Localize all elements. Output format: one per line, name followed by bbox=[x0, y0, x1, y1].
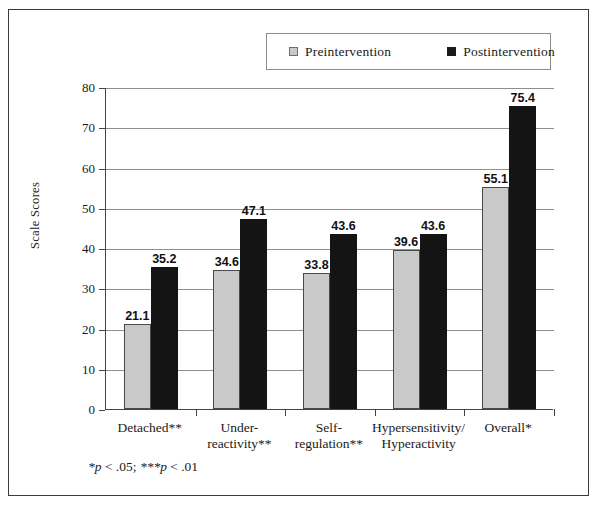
bar-value-label: 33.8 bbox=[304, 258, 328, 272]
y-axis-tick-label: 80 bbox=[61, 80, 95, 96]
footnote-part-3: ***p bbox=[140, 459, 167, 474]
bar-group: 21.135.2 bbox=[124, 87, 178, 409]
bar-postintervention: 35.2 bbox=[151, 267, 178, 409]
bar-preintervention: 55.1 bbox=[482, 187, 509, 409]
x-axis-category-label: Detached** bbox=[99, 420, 201, 436]
footnote-part-4: < .01 bbox=[167, 459, 198, 474]
bar-postintervention: 47.1 bbox=[240, 219, 267, 409]
y-axis-tick-label: 50 bbox=[61, 201, 95, 217]
bar-value-label: 39.6 bbox=[394, 235, 418, 249]
y-axis-tick-label: 30 bbox=[61, 281, 95, 297]
legend-label-postintervention: Postintervention bbox=[463, 44, 555, 60]
footnote-significance: *p < .05; ***p < .01 bbox=[88, 459, 198, 475]
bar-group: 39.643.6 bbox=[393, 87, 447, 409]
bar-postintervention: 75.4 bbox=[509, 106, 536, 409]
y-axis-tick-label: 40 bbox=[61, 241, 95, 257]
y-axis-tick-label: 60 bbox=[61, 161, 95, 177]
x-axis-tick-mark bbox=[196, 409, 197, 416]
chart-legend: Preintervention Postintervention bbox=[266, 33, 551, 70]
x-axis-category-label: Hypersensitivity/ Hyperactivity bbox=[368, 420, 470, 452]
legend-swatch-postintervention-icon bbox=[447, 47, 456, 56]
y-axis-tick-label: 10 bbox=[61, 362, 95, 378]
bar-group: 55.175.4 bbox=[482, 87, 536, 409]
x-axis-category-label: Under- reactivity** bbox=[189, 420, 291, 452]
plot-area: 21.135.234.647.133.843.639.643.655.175.4 bbox=[105, 88, 553, 410]
bar-value-label: 43.6 bbox=[421, 219, 445, 233]
footnote-part-2: < .05; bbox=[102, 459, 140, 474]
x-axis-tick-mark bbox=[375, 409, 376, 416]
bar-value-label: 75.4 bbox=[511, 91, 535, 105]
bar-value-label: 55.1 bbox=[484, 172, 508, 186]
x-axis-category-label: Self- regulation** bbox=[278, 420, 380, 452]
bar-value-label: 21.1 bbox=[125, 309, 149, 323]
bar-preintervention: 39.6 bbox=[393, 250, 420, 409]
bar-preintervention: 34.6 bbox=[213, 270, 240, 409]
y-axis-tick-mark bbox=[99, 410, 105, 411]
y-axis-tick-label: 0 bbox=[61, 402, 95, 418]
legend-item-preintervention: Preintervention bbox=[289, 44, 391, 60]
bar-group: 33.843.6 bbox=[303, 87, 357, 409]
x-axis-tick-mark bbox=[285, 409, 286, 416]
y-axis-tick-label: 70 bbox=[61, 120, 95, 136]
legend-swatch-preintervention-icon bbox=[289, 47, 298, 56]
x-axis-tick-mark bbox=[554, 409, 555, 416]
bar-preintervention: 21.1 bbox=[124, 324, 151, 409]
legend-label-preintervention: Preintervention bbox=[305, 44, 391, 60]
x-axis-tick-mark bbox=[464, 409, 465, 416]
bar-value-label: 35.2 bbox=[152, 252, 176, 266]
y-axis-title: Scale Scores bbox=[28, 182, 43, 249]
bar-postintervention: 43.6 bbox=[330, 234, 357, 409]
bar-value-label: 47.1 bbox=[242, 204, 266, 218]
bar-postintervention: 43.6 bbox=[420, 234, 447, 409]
figure-bar-chart: Preintervention Postintervention Scale S… bbox=[0, 0, 598, 505]
bar-value-label: 34.6 bbox=[215, 255, 239, 269]
footnote-part-1: *p bbox=[88, 459, 102, 474]
legend-item-postintervention: Postintervention bbox=[447, 44, 555, 60]
y-axis-tick-label: 20 bbox=[61, 322, 95, 338]
bar-preintervention: 33.8 bbox=[303, 273, 330, 409]
bar-group: 34.647.1 bbox=[213, 87, 267, 409]
bar-value-label: 43.6 bbox=[331, 219, 355, 233]
x-axis-category-label: Overall* bbox=[457, 420, 559, 436]
